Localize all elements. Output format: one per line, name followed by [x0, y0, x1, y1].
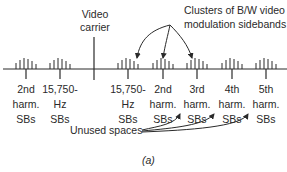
carrier-label-line1: Video — [80, 8, 110, 21]
unused-spaces-note: Unused spaces — [70, 123, 142, 137]
sideband-label-line: 2nd — [150, 82, 177, 97]
cluster-arrow-2 — [163, 25, 170, 58]
cluster-arrow-1 — [137, 25, 170, 58]
clusters-note: Clusters of B/W video modulation sideban… — [184, 3, 286, 31]
clusters-note-line2: modulation sidebands — [184, 17, 286, 31]
sideband-label-line: 4th — [219, 82, 246, 97]
sideband-label: 4thharm.SBs — [219, 82, 246, 127]
sideband-label: 15,750-HzSBs — [42, 82, 78, 127]
sideband-label-line: Hz — [42, 97, 78, 112]
sideband-label-line: SBs — [184, 112, 211, 127]
video-carrier-label: Video carrier — [80, 8, 110, 34]
sideband-label: 5thharm.SBs — [253, 82, 280, 127]
sideband-label-line: 5th — [253, 82, 280, 97]
sideband-label-line: 15,750- — [110, 82, 146, 97]
sideband-label-line: 3rd — [184, 82, 211, 97]
sideband-label: 2ndharm.SBs — [150, 82, 177, 127]
sideband-label: 2ndharm.SBs — [13, 82, 40, 127]
sideband-label-line: SBs — [150, 112, 177, 127]
sideband-label-line: harm. — [13, 97, 40, 112]
sideband-label-line: harm. — [253, 97, 280, 112]
sideband-label-line: harm. — [150, 97, 177, 112]
sideband-label-line: 2nd — [13, 82, 40, 97]
sideband-label-line: SBs — [253, 112, 280, 127]
sideband-label-line: SBs — [219, 112, 246, 127]
sideband-label-line: Hz — [110, 97, 146, 112]
figure-caption: (a) — [142, 153, 155, 167]
sideband-label-line: harm. — [184, 97, 211, 112]
sideband-label-line: 15,750- — [42, 82, 78, 97]
sideband-label: 15,750-HzSBs — [110, 82, 146, 127]
sideband-label-line: harm. — [219, 97, 246, 112]
clusters-note-line1: Clusters of B/W video — [184, 3, 286, 17]
carrier-label-line2: carrier — [80, 21, 110, 34]
sideband-label-line: SBs — [13, 112, 40, 127]
sideband-label: 3rdharm.SBs — [184, 82, 211, 127]
